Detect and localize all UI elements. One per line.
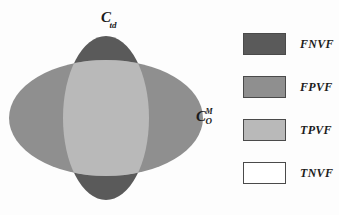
set-label-c-o-m-superscript: M <box>206 108 213 115</box>
set-label-c-o-m-subscript: O <box>206 117 213 125</box>
set-label-c-o-m: CMO <box>196 108 213 125</box>
set-label-c-td: Ctd <box>101 9 118 28</box>
legend-item-tnvf: TNVF <box>243 162 339 184</box>
legend-item-fpvf: FPVF <box>243 76 339 98</box>
set-label-c-o-m-scripts: MO <box>206 111 213 126</box>
legend-swatch-tpvf <box>243 119 286 141</box>
legend-item-tpvf: TPVF <box>243 119 339 141</box>
legend-label-fpvf: FPVF <box>300 80 333 95</box>
set-label-c-o-m-symbol: C <box>196 108 206 124</box>
legend-swatch-fpvf <box>243 76 286 98</box>
legend-swatch-tnvf <box>243 162 286 184</box>
legend-item-fnvf: FNVF <box>243 33 339 55</box>
figure-canvas: Ctd CMO FNVF FPVF TPVF TNVF <box>0 0 339 215</box>
legend: FNVF FPVF TPVF TNVF <box>243 33 339 184</box>
legend-swatch-fnvf <box>243 33 286 55</box>
legend-label-tpvf: TPVF <box>300 123 332 138</box>
legend-label-tnvf: TNVF <box>300 166 333 181</box>
set-label-c-td-subscript: td <box>110 20 117 30</box>
legend-label-fnvf: FNVF <box>300 37 334 52</box>
